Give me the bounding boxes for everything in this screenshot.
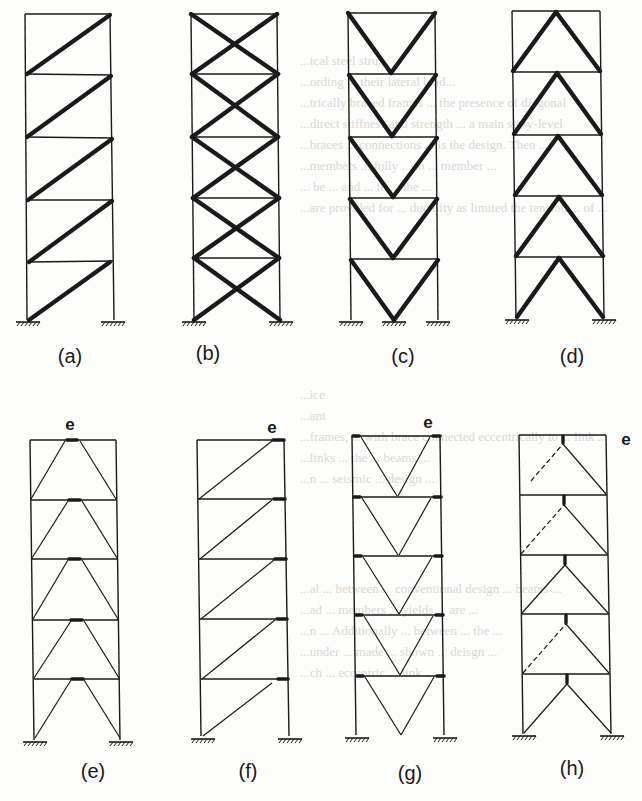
- ground-support-icon: [182, 322, 206, 326]
- ground-support-icon: [109, 742, 133, 746]
- panel-label-e: (e): [81, 760, 105, 783]
- panel-label-d: (d): [560, 345, 584, 368]
- link-label-g: e: [423, 413, 432, 433]
- ground-support-icon: [269, 322, 293, 326]
- ground-support-icon: [101, 322, 125, 326]
- panel-label-c: (c): [391, 345, 414, 368]
- ground-support-icon: [600, 736, 624, 740]
- ground-support-icon: [23, 742, 47, 746]
- ground-support-icon: [191, 739, 215, 743]
- ground-support-icon: [339, 322, 363, 326]
- frame-f: [191, 440, 302, 743]
- ground-support-icon: [382, 322, 406, 326]
- ground-support-icon: [278, 739, 302, 743]
- panel-label-a: (a): [58, 345, 82, 368]
- link-segments: [67, 440, 83, 679]
- frame-c: [339, 13, 450, 326]
- panel-label-h: (h): [560, 757, 584, 780]
- link-label-e: e: [65, 415, 74, 435]
- ground-support-icon: [592, 320, 616, 324]
- panel-label-g: (g): [398, 762, 422, 785]
- ground-support-icon: [345, 738, 369, 742]
- panel-label-b: (b): [196, 342, 220, 365]
- frame-h: [512, 435, 624, 740]
- frame-d: [505, 11, 616, 324]
- frame-g: [345, 436, 457, 742]
- ground-support-icon: [512, 736, 536, 740]
- ground-support-icon: [505, 320, 529, 324]
- frame-e: [23, 440, 133, 746]
- ground-support-icon: [426, 322, 450, 326]
- frame-b: [182, 14, 293, 326]
- link-segments: [273, 440, 288, 679]
- link-label-f: e: [267, 418, 276, 438]
- frames-drawing: [0, 0, 642, 801]
- ground-support-icon: [16, 322, 40, 326]
- link-segments: [563, 436, 567, 683]
- panel-label-f: (f): [239, 760, 258, 783]
- bracing-configurations-figure: ...ical steel stru... ...ording to their…: [0, 0, 642, 801]
- link-label-h: e: [621, 430, 630, 450]
- ground-support-icon: [433, 738, 457, 742]
- frame-a: [16, 14, 125, 326]
